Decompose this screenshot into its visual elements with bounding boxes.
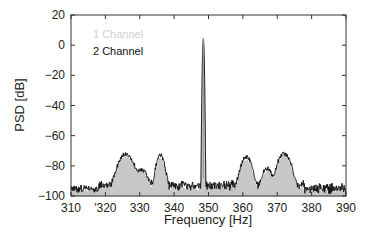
x-tick-label: 310 bbox=[61, 201, 81, 215]
plot-series bbox=[71, 38, 346, 196]
series-1-channel-area bbox=[71, 38, 346, 196]
plot-frame bbox=[71, 15, 346, 196]
y-tick-label: −100 bbox=[38, 189, 65, 203]
x-tick-label: 380 bbox=[302, 201, 322, 215]
axis-ticks bbox=[71, 15, 346, 196]
x-tick-label: 390 bbox=[336, 201, 356, 215]
legend-entry-1-channel: 1 Channel bbox=[93, 28, 143, 40]
y-tick-label: 0 bbox=[58, 38, 65, 52]
x-tick-label: '320 bbox=[94, 201, 117, 215]
x-axis-label: Frequency [Hz] bbox=[164, 212, 252, 227]
series-2-channel-line bbox=[71, 39, 346, 194]
y-tick-label: −60 bbox=[45, 129, 66, 143]
y-tick-label: −40 bbox=[45, 99, 66, 113]
y-axis-label: PSD [dB] bbox=[12, 78, 27, 131]
plot-border bbox=[71, 15, 346, 196]
y-tick-label: −20 bbox=[45, 68, 66, 82]
psd-chart: 310'320330340350360370380390 −100−80−60−… bbox=[0, 0, 374, 242]
y-tick-labels: −100−80−60−40−20020 bbox=[38, 8, 65, 203]
y-tick-label: −80 bbox=[45, 159, 66, 173]
x-tick-label: 370 bbox=[267, 201, 287, 215]
legend-entry-2-channel: 2 Channel bbox=[93, 45, 143, 57]
x-tick-label: 330 bbox=[130, 201, 150, 215]
y-tick-label: 20 bbox=[52, 8, 66, 22]
